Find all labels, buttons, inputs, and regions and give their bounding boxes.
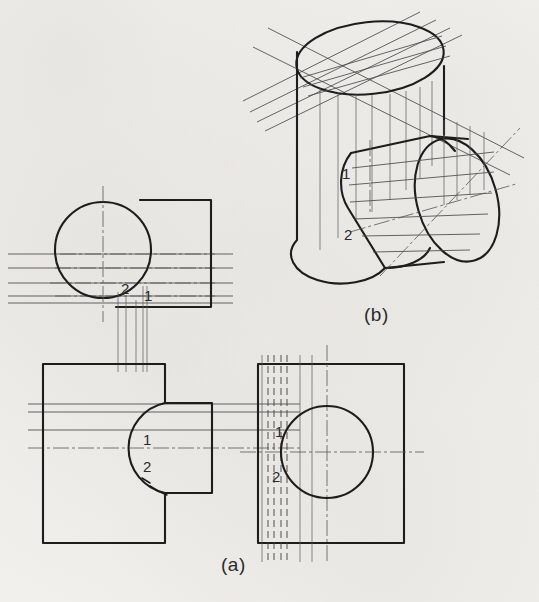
pictorial-label-1: 1 [342,166,350,181]
technical-drawing-canvas: .ink { stroke:#1d1d1d; fill:none; stroke… [0,0,539,602]
side-view [240,345,424,562]
drawing-page: .ink { stroke:#1d1d1d; fill:none; stroke… [0,0,539,602]
side-view-rectangle [258,364,404,543]
pictorial-horizontal-cylinder-axis [350,184,516,232]
front-view-label-2: 2 [143,459,151,474]
top-view-label-1: 1 [144,288,152,303]
pictorial-label-2: 2 [344,227,352,242]
pictorial-horizontal-cylinder-upper-contour [430,136,468,139]
pictorial-view [243,12,524,284]
top-view [8,186,233,372]
pictorial-vertical-cylinder-top-ellipse [293,14,448,101]
front-view [28,364,300,543]
side-view-label-1: 1 [275,424,283,439]
front-view-horizontal-projectors [28,404,300,430]
front-view-label-1: 1 [143,432,151,447]
front-view-outline [43,364,165,543]
caption-b: (b) [364,305,389,324]
pictorial-horizontal-element-lines [349,152,494,252]
top-view-label-2: 2 [121,281,129,296]
caption-a: (a) [221,555,246,574]
top-view-projectors [118,286,147,372]
side-view-hidden-lines [268,355,287,562]
pictorial-saddle-construction [444,120,484,205]
top-view-rectangle [116,200,211,307]
pictorial-top-ellipse-chords [300,36,450,96]
side-view-label-2: 2 [272,469,280,484]
